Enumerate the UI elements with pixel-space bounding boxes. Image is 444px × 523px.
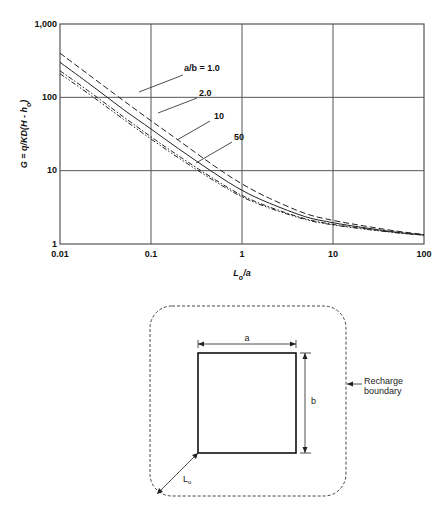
chart: a/b = 1.0 2.0 10 50 1,000 100 10 1 0.01 … xyxy=(0,0,444,523)
x-tick-0.01: 0.01 xyxy=(51,249,69,259)
geometry-diagram: a b Lo Recharge boundary xyxy=(150,306,403,496)
curve-label-4: 50 xyxy=(234,132,244,142)
y-tick-100: 100 xyxy=(42,92,57,102)
recharge-boundary-label-1: Recharge xyxy=(364,376,403,386)
x-tick-10: 10 xyxy=(328,249,338,259)
y-axis-label: G = q/KD(H - ho) xyxy=(19,100,32,169)
y-tick-10: 10 xyxy=(47,165,57,175)
x-tick-0.1: 0.1 xyxy=(145,249,158,259)
y-tick-1: 1 xyxy=(52,239,57,249)
dimension-a-label: a xyxy=(244,333,249,343)
curve-label-2: 2.0 xyxy=(199,88,212,98)
distance-lo-label: Lo xyxy=(183,474,192,485)
x-axis-ticks: 0.01 0.1 1 10 100 xyxy=(51,249,431,259)
x-axis-label: Lo/a xyxy=(233,268,250,281)
dimension-b-label: b xyxy=(311,396,316,406)
y-tick-1000: 1,000 xyxy=(34,19,57,29)
curve-label-1: a/b = 1.0 xyxy=(184,63,220,73)
excavation-rectangle xyxy=(198,353,296,453)
x-tick-1: 1 xyxy=(239,249,244,259)
x-tick-100: 100 xyxy=(416,249,431,259)
curve-label-3: 10 xyxy=(214,111,224,121)
plot-area: a/b = 1.0 2.0 10 50 xyxy=(60,24,424,244)
recharge-boundary-label-2: boundary xyxy=(364,386,402,396)
y-axis-ticks: 1,000 100 10 1 xyxy=(34,19,57,249)
